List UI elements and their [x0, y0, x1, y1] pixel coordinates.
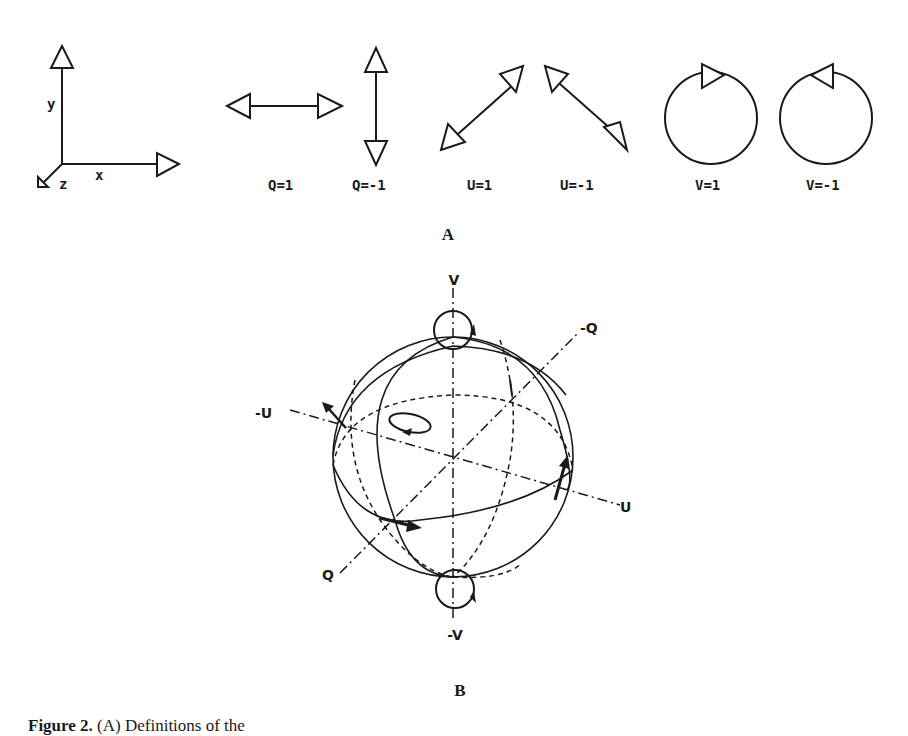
minus-q-axis-label: -Q — [580, 320, 598, 336]
u-positive-label: U=1 — [467, 177, 492, 193]
minus-u-axis-label: -U — [255, 405, 272, 421]
ellipse-rotation-arrowhead-icon — [402, 428, 412, 436]
q-positive-label: Q=1 — [268, 177, 293, 193]
u-linear-arrow — [555, 464, 565, 500]
upper-right-arrowhead-icon — [500, 66, 523, 92]
v-negative-polarization: V=-1 — [780, 64, 872, 193]
lower-left-arrowhead-icon — [441, 124, 465, 150]
counterclockwise-arrowhead-icon — [811, 64, 833, 88]
y-axis-label: y — [47, 96, 56, 112]
u-positive-polarization: U=1 — [441, 66, 523, 193]
minus-v-axis-label: -V — [447, 627, 463, 643]
left-arrowhead-icon — [227, 94, 250, 118]
caption-prefix: Figure 2. — [28, 716, 93, 735]
panel-b-label: B — [454, 681, 465, 700]
u-axis-label: U — [620, 499, 631, 515]
lower-right-arrowhead-icon — [604, 122, 627, 150]
panel-a-label: A — [442, 225, 455, 244]
coordinate-axes: y x z — [38, 46, 179, 192]
right-arrowhead-icon — [318, 94, 342, 118]
v-axis-label: V — [449, 272, 460, 288]
u-arrowhead-icon — [559, 455, 569, 469]
panel-b-poincare-sphere: V -Q -U U Q -V B — [255, 272, 631, 700]
q-negative-polarization: Q=-1 — [352, 48, 387, 193]
meridian-back-left — [351, 380, 453, 577]
v-negative-rotation-arrowhead-icon — [470, 591, 476, 603]
minus-q-linear-arrow — [510, 380, 512, 395]
meridian-back-right — [453, 340, 513, 577]
up-arrowhead-icon — [365, 48, 387, 72]
down-arrowhead-icon — [365, 141, 387, 165]
meridian-front-left — [377, 337, 453, 577]
u-negative-label: U=-1 — [560, 177, 594, 193]
q-arrowhead-icon — [406, 520, 422, 532]
figure-caption: Figure 2. (A) Definitions of the — [28, 716, 245, 736]
u-negative-polarization: U=-1 — [545, 66, 627, 193]
x-axis-arrowhead-icon — [157, 153, 179, 176]
x-axis-label: x — [95, 167, 104, 183]
q-negative-label: Q=-1 — [352, 177, 386, 193]
great-circle-upper — [333, 346, 566, 455]
v-positive-polarization: V=1 — [665, 64, 757, 193]
q-positive-polarization: Q=1 — [227, 94, 342, 193]
z-axis-label: z — [59, 176, 67, 192]
v-negative-circular-marker — [436, 570, 474, 608]
y-axis-arrowhead-icon — [51, 46, 73, 68]
q-axis-label: Q — [322, 567, 334, 583]
clockwise-arrowhead-icon — [702, 64, 724, 88]
v-negative-label: V=-1 — [806, 177, 840, 193]
v-positive-label: V=1 — [695, 177, 720, 193]
panel-a: y x z Q=1 Q=-1 U=1 — [38, 46, 872, 244]
caption-text: (A) Definitions of the — [97, 716, 245, 735]
